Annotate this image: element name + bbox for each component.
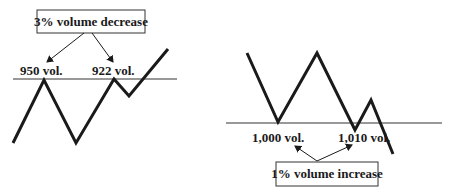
arrow-left <box>47 33 84 62</box>
annotation-box-text: 1% volume increase <box>271 166 383 181</box>
annotation-box-text: 3% volume decrease <box>34 14 148 29</box>
arrow-left <box>295 146 317 161</box>
volume-label-second: 1,010 vol. <box>338 130 390 145</box>
left-diagram: 3% volume decrease 950 vol. 922 vol. <box>13 10 177 143</box>
volume-label-second: 922 vol. <box>92 63 135 78</box>
arrow-right <box>317 145 352 161</box>
arrow-right <box>92 33 113 62</box>
volume-label-first: 1,000 vol. <box>252 130 304 145</box>
right-diagram: 1,000 vol. 1,010 vol. 1% volume increase <box>226 53 442 186</box>
diagram-canvas: 3% volume decrease 950 vol. 922 vol. 1,0… <box>0 0 452 196</box>
volume-label-first: 950 vol. <box>20 63 63 78</box>
